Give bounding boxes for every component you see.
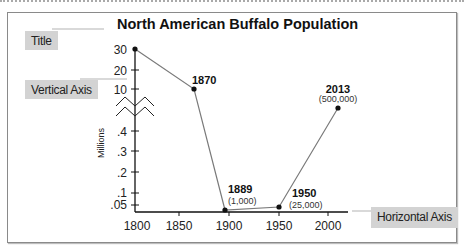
x-tick-label: 2000 <box>315 219 342 233</box>
y-tick-label: 30 <box>114 43 128 57</box>
y-tick-label: .3 <box>117 145 127 159</box>
data-point-2013 <box>335 105 340 110</box>
y-tick-label: .05 <box>110 198 127 212</box>
point-label-1950: 1950 <box>292 187 316 199</box>
data-point-1870 <box>191 86 196 91</box>
data-point-1800 <box>132 46 137 51</box>
y-tick-label: 10 <box>114 83 128 97</box>
point-value-1889: (1,000) <box>228 196 257 206</box>
y-tick-label: .4 <box>117 125 127 139</box>
point-label-1870: 1870 <box>192 74 216 86</box>
data-point-1889 <box>222 207 227 212</box>
y-tick-label: .2 <box>117 166 127 180</box>
data-point-1950 <box>276 204 281 209</box>
point-value-1950: (25,000) <box>289 200 323 210</box>
x-tick-label: 1800 <box>124 219 151 233</box>
y-axis-label: Millions <box>96 128 106 159</box>
y-tick-label: 20 <box>114 64 128 78</box>
point-label-1889: 1889 <box>228 183 252 195</box>
x-tick-label: 1850 <box>166 219 193 233</box>
point-value-2013: (500,000) <box>319 94 358 104</box>
x-tick-label: 1900 <box>216 219 243 233</box>
chart-svg: 30 20 10 .4 .3 .2 .1 .05 Millions 1800 1… <box>0 0 464 250</box>
x-tick-label: 1950 <box>266 219 293 233</box>
